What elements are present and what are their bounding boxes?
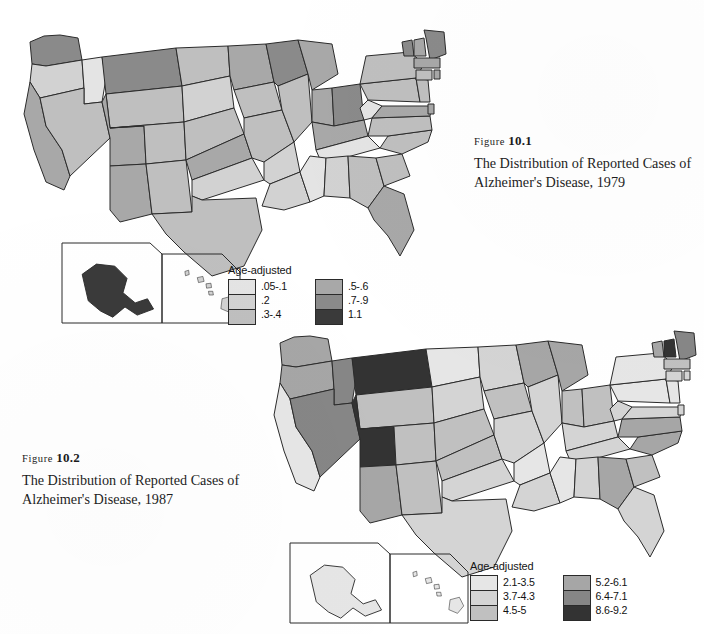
state-in: Indiana	[562, 389, 584, 427]
legend-swatch	[564, 576, 590, 591]
legend-label: .3-.4	[261, 307, 287, 321]
state-hi-island-3	[206, 283, 212, 288]
legend-title-1979: Age-adjusted	[228, 264, 368, 276]
state-hi-island-5	[449, 597, 464, 613]
figure-page: WashingtonOregonCaliforniaIdahoNevadaMon…	[0, 0, 704, 634]
legend-labels-left-1979: .05-.1.2.3-.4	[261, 279, 287, 325]
legend-swatch	[471, 576, 497, 591]
state-nm: New Mexico	[146, 160, 192, 214]
legend-label: 2.1-3.5	[503, 575, 535, 589]
state-nh: New Hampshire	[664, 339, 676, 357]
legend-column-left-1979: .05-.1.2.3-.4	[228, 279, 287, 325]
figure-label-number-1987: 10.2	[56, 450, 80, 465]
state-wy: Wyoming	[356, 387, 434, 429]
state-az: Arizona	[360, 465, 402, 523]
state-oh: Ohio	[582, 385, 614, 427]
figure-label-1987: Figure 10.2	[22, 450, 272, 466]
figure-label-prefix-1987: Figure	[22, 453, 53, 464]
figure-label-1979: Figure 10.1	[474, 133, 696, 149]
state-al: Alabama	[324, 156, 350, 198]
figure-caption-text-1987: The Distribution of Reported Cases of Al…	[22, 471, 272, 509]
state-ct: Connecticut	[666, 371, 682, 381]
figure-label-prefix-1979: Figure	[474, 136, 505, 147]
legend-title-1987: Age-adjusted	[470, 560, 627, 572]
legend-1987: Age-adjusted 2.1-3.53.7-4.34.5-5 5.2-6.1…	[470, 560, 627, 621]
caption-line-2: Alzheimer's Disease, 1979	[474, 174, 625, 190]
legend-label: .05-.1	[261, 279, 287, 293]
legend-column-left-1987: 2.1-3.53.7-4.34.5-5	[470, 575, 535, 621]
state-hi-island-1	[185, 270, 189, 276]
legend-swatches-right-1987	[563, 575, 591, 621]
legend-swatch	[471, 606, 497, 620]
state-ma: Massachusetts	[664, 359, 690, 369]
legend-column-right-1979: .5-.6.7-.91.1	[315, 279, 368, 325]
state-vt: Vermont	[652, 341, 664, 357]
state-ct: Connecticut	[416, 70, 432, 80]
legend-swatch	[229, 310, 255, 324]
state-nh: New Hampshire	[414, 38, 426, 56]
legend-swatch	[229, 295, 255, 310]
caption-line-1: The Distribution of Reported Cases of	[474, 155, 691, 171]
state-az: Arizona	[110, 164, 152, 222]
figure-caption-text-1979: The Distribution of Reported Cases of Al…	[474, 154, 696, 192]
legend-swatch	[316, 310, 342, 324]
state-ma: Massachusetts	[414, 58, 440, 68]
state-me: Maine	[424, 30, 446, 60]
legend-swatch	[229, 280, 255, 295]
state-de: Delaware	[678, 405, 684, 415]
state-hi-island-2	[197, 276, 204, 282]
figure-caption-1979: Figure 10.1 The Distribution of Reported…	[474, 133, 696, 192]
legend-swatch	[316, 295, 342, 310]
caption-line-2: Alzheimer's Disease, 1987	[22, 491, 173, 507]
state-ak	[310, 565, 381, 618]
state-ri: Rhode Island	[684, 371, 690, 380]
legend-label: .2	[261, 293, 287, 307]
figure-caption-1987: Figure 10.2 The Distribution of Reported…	[22, 450, 272, 509]
legend-column-right-1987: 5.2-6.16.4-7.18.6-9.2	[563, 575, 628, 621]
legend-label: 1.1	[348, 307, 368, 321]
legend-swatch	[564, 606, 590, 620]
legend-labels-right-1979: .5-.6.7-.91.1	[348, 279, 368, 325]
state-nm: New Mexico	[396, 461, 442, 515]
state-oh: Ohio	[332, 84, 364, 126]
state-hi-island-2	[425, 577, 432, 583]
state-in: Indiana	[312, 88, 334, 126]
state-vt: Vermont	[402, 40, 414, 56]
state-al: Alabama	[574, 457, 600, 499]
state-hi-island-4	[208, 291, 213, 295]
legend-labels-right-1987: 5.2-6.16.4-7.18.6-9.2	[596, 575, 628, 621]
state-md: Maryland	[372, 106, 432, 118]
legend-label: .7-.9	[348, 293, 368, 307]
legend-label: 4.5-5	[503, 603, 535, 617]
legend-swatch	[564, 591, 590, 606]
legend-swatch	[316, 280, 342, 295]
state-md: Maryland	[622, 407, 682, 419]
state-wy: Wyoming	[106, 86, 184, 128]
figure-label-number-1979: 10.1	[508, 133, 532, 148]
legend-1979: Age-adjusted .05-.1.2.3-.4 .5-.6.7-.91.1	[228, 264, 368, 325]
legend-label: 5.2-6.1	[596, 575, 628, 589]
legend-swatches-left-1979	[228, 279, 256, 325]
legend-swatch	[471, 591, 497, 606]
state-hi-island-4	[436, 592, 441, 596]
state-me: Maine	[674, 331, 696, 361]
legend-label: 3.7-4.3	[503, 589, 535, 603]
legend-labels-left-1987: 2.1-3.53.7-4.34.5-5	[503, 575, 535, 621]
legend-label: 6.4-7.1	[596, 589, 628, 603]
state-hi-island-3	[434, 584, 440, 589]
state-ak	[82, 264, 153, 317]
state-de: Delaware	[428, 104, 434, 114]
legend-label: .5-.6	[348, 279, 368, 293]
legend-label: 8.6-9.2	[596, 603, 628, 617]
state-hi-island-1	[413, 571, 417, 577]
legend-swatches-right-1979	[315, 279, 343, 325]
caption-line-1: The Distribution of Reported Cases of	[22, 472, 239, 488]
legend-swatches-left-1987	[470, 575, 498, 621]
state-ri: Rhode Island	[434, 70, 440, 79]
